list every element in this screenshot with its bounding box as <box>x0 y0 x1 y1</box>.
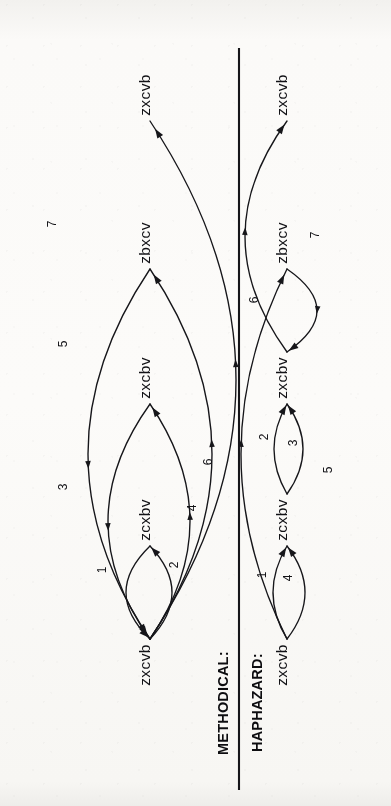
arrowhead-methodical-3 <box>152 408 160 418</box>
node-label-methodical-4: zxcvb <box>136 74 153 116</box>
arrowhead-mid-haphazard-6 <box>315 306 321 314</box>
edge-haphazard-2 <box>287 404 303 494</box>
node-label-haphazard-2: zxcbv <box>273 357 290 399</box>
node-label-methodical-1: zcxbv <box>136 499 153 541</box>
node-label-haphazard-3: zbxcv <box>273 222 290 264</box>
edge-number-haphazard-4: 4 <box>281 574 295 581</box>
edge-number-methodical-5: 5 <box>56 340 70 347</box>
arrowhead-mid-methodical-4 <box>105 523 111 531</box>
row-label-haphazard: HAPHAZARD: <box>249 653 265 752</box>
edge-number-haphazard-7: 7 <box>308 231 322 238</box>
arrowhead-haphazard-5 <box>277 275 284 285</box>
edge-methodical-2 <box>126 546 150 639</box>
arrowhead-methodical-7 <box>155 129 163 139</box>
edge-haphazard-5 <box>241 269 287 639</box>
arrowhead-haphazard-4 <box>278 547 286 557</box>
divider-and-row-labels: METHODICAL:HAPHAZARD: <box>215 48 265 790</box>
edge-haphazard-1 <box>287 546 305 639</box>
edge-number-methodical-7: 7 <box>45 220 59 227</box>
arrowhead-methodical-1 <box>151 547 160 556</box>
arrowhead-haphazard-1 <box>288 547 296 557</box>
node-label-haphazard-4: zxcvb <box>273 74 290 116</box>
edge-haphazard-3 <box>274 404 287 494</box>
edge-number-methodical-2: 2 <box>167 561 181 568</box>
arrowhead-haphazard-3 <box>279 405 287 415</box>
edge-number-methodical-6: 6 <box>201 458 215 465</box>
node-label-methodical-3: zbxcv <box>136 222 153 264</box>
edge-number-haphazard-3: 3 <box>286 439 300 446</box>
edge-methodical-1 <box>150 546 172 639</box>
edge-methodical-5 <box>150 269 212 639</box>
edge-methodical-6 <box>88 269 150 639</box>
edge-number-haphazard-1: 1 <box>255 571 269 578</box>
node-label-haphazard-0: zxcvb <box>273 644 290 686</box>
node-label-methodical-2: zxcbv <box>136 357 153 399</box>
edge-number-haphazard-2: 2 <box>257 433 271 440</box>
arrowhead-mid-methodical-3 <box>187 512 193 520</box>
edge-number-methodical-3: 3 <box>56 483 70 490</box>
node-label-methodical-0: zxcvb <box>136 644 153 686</box>
arrowhead-haphazard-2 <box>288 405 296 415</box>
edge-number-haphazard-5: 5 <box>321 466 335 473</box>
edge-haphazard-6 <box>287 269 317 352</box>
edge-number-methodical-4: 4 <box>185 504 199 511</box>
arrowhead-methodical-5 <box>154 275 162 285</box>
traversal-diagram: zxcvbzcxbvzxcbvzbxcvzxcvbzxcvbzcxbvzxcbv… <box>0 0 391 806</box>
arrowhead-mid-methodical-7 <box>233 359 239 367</box>
arrowhead-mid-haphazard-7 <box>242 227 248 235</box>
node-label-haphazard-1: zcxbv <box>273 499 290 541</box>
arrowhead-mid-methodical-5 <box>209 439 215 447</box>
edge-number-haphazard-6: 6 <box>247 296 261 303</box>
arrowhead-mid-methodical-6 <box>85 461 91 469</box>
row-label-methodical: METHODICAL: <box>215 651 231 755</box>
edge-methodical-3 <box>150 404 190 639</box>
edge-number-methodical-1: 1 <box>95 566 109 573</box>
arrowhead-haphazard-7 <box>276 124 284 134</box>
